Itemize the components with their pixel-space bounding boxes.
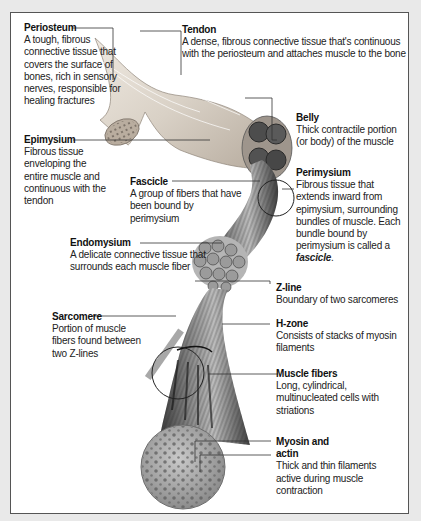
perimysium-tail: . bbox=[331, 252, 334, 263]
tendon-title: Tendon bbox=[182, 24, 410, 36]
label-epimysium: Epimysium Fibrous tissue enveloping the … bbox=[24, 134, 109, 207]
label-belly: Belly Thick contractile portion (or body… bbox=[296, 112, 406, 149]
label-periosteum: Periosteum A tough, fibrous connective t… bbox=[24, 22, 134, 107]
myofibril-cross-section bbox=[141, 425, 225, 509]
zline-description: Boundary of two sarcomeres bbox=[276, 294, 406, 306]
label-tendon: Tendon A dense, fibrous connective tissu… bbox=[182, 24, 410, 61]
myosin-actin-description: Thick and thin filaments active during m… bbox=[276, 460, 401, 497]
periosteum-title: Periosteum bbox=[24, 22, 134, 34]
label-hzone: H-zone Consists of stacks of myosin fila… bbox=[276, 318, 401, 355]
zline-title: Z-line bbox=[276, 282, 406, 294]
myosin-actin-title-line2: actin bbox=[276, 448, 401, 460]
endomysium-description: A delicate connective tissue that surrou… bbox=[70, 249, 210, 273]
belly-title: Belly bbox=[296, 112, 406, 124]
belly-description: Thick contractile portion (or body) of t… bbox=[296, 124, 406, 148]
fascicle-description: A group of fibers that have been bound b… bbox=[130, 188, 245, 225]
perimysium-title: Perimysium bbox=[296, 167, 406, 179]
hzone-title: H-zone bbox=[276, 318, 401, 330]
perimysium-description: Fibrous tissue that extends inward from … bbox=[296, 179, 400, 251]
periosteum-description: A tough, fibrous connective tissue that … bbox=[24, 34, 134, 107]
muscle-fibers-description: Long, cylindrical, multinucleated cells … bbox=[276, 380, 406, 417]
myosin-actin-title-line1: Myosin and bbox=[276, 436, 401, 448]
label-sarcomere: Sarcomere Portion of muscle fibers found… bbox=[52, 311, 144, 360]
tendon-description: A dense, fibrous connective tissue that'… bbox=[182, 36, 410, 60]
sarcomere-title: Sarcomere bbox=[52, 311, 144, 323]
label-perimysium: Perimysium Fibrous tissue that extends i… bbox=[296, 167, 406, 265]
label-myosin-actin: Myosin and actin Thick and thin filament… bbox=[276, 436, 401, 497]
label-fascicle: Fascicle A group of fibers that have bee… bbox=[130, 176, 245, 225]
epimysium-title: Epimysium bbox=[24, 134, 109, 146]
label-endomysium: Endomysium A delicate connective tissue … bbox=[70, 237, 210, 274]
perimysium-emphasis: fascicle bbox=[296, 252, 331, 263]
sarcomere-description: Portion of muscle fibers found between t… bbox=[52, 323, 144, 360]
muscle-fiber bbox=[160, 288, 250, 445]
hzone-description: Consists of stacks of myosin filaments bbox=[276, 330, 401, 354]
label-muscle-fibers: Muscle fibers Long, cylindrical, multinu… bbox=[276, 368, 406, 417]
epimysium-description: Fibrous tissue enveloping the entire mus… bbox=[24, 146, 109, 207]
label-zline: Z-line Boundary of two sarcomeres bbox=[276, 282, 406, 306]
fascicle-title: Fascicle bbox=[130, 176, 245, 188]
muscle-fibers-title: Muscle fibers bbox=[276, 368, 406, 380]
endomysium-title: Endomysium bbox=[70, 237, 210, 249]
